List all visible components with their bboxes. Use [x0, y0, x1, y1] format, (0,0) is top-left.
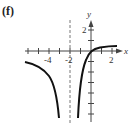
x-tick-label: 2: [109, 55, 114, 65]
x-axis: [25, 48, 123, 54]
y-axis: [88, 20, 94, 122]
function-graph: x y -4 -2 2 2: [0, 0, 135, 127]
x-axis-arrow-icon: [116, 49, 123, 54]
x-tick-label: -2: [65, 55, 73, 65]
curve-left-branch: [25, 62, 59, 118]
x-axis-label: x: [123, 46, 128, 56]
x-tick-label: -4: [44, 55, 52, 65]
y-axis-label: y: [86, 9, 91, 19]
y-axis-arrow-icon: [89, 20, 94, 27]
y-tick-label: 2: [82, 25, 87, 35]
